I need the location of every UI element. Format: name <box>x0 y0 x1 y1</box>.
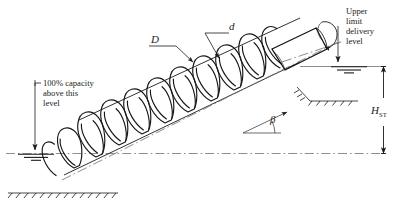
screw-trough <box>62 18 340 180</box>
water-level-icon-lower <box>18 154 54 160</box>
upper-limit-line-1: Upper <box>346 6 368 16</box>
water-level-icon-upper <box>331 67 367 73</box>
screw-flights <box>38 24 293 177</box>
lower-capacity-line-3: level <box>43 98 60 108</box>
leader-outer-diameter <box>149 46 193 62</box>
incline-angle-label: β <box>269 113 276 125</box>
figure-root: Upper limit delivery level 100% capacity… <box>0 0 403 219</box>
static-head-dimension <box>381 67 386 154</box>
lower-capacity-line-2: above this <box>43 88 79 98</box>
ground-hatch-right <box>294 87 358 106</box>
inner-diameter-label: d <box>229 20 235 32</box>
drive-tube <box>272 28 344 70</box>
upper-limit-line-3: delivery <box>346 26 375 36</box>
ground-hatch-left <box>8 193 118 198</box>
static-head-subscript: ST <box>379 111 387 118</box>
screw-pump-diagram: Upper limit delivery level 100% capacity… <box>0 0 403 219</box>
outer-diameter-label: D <box>150 33 159 45</box>
upper-limit-line-2: limit <box>346 16 363 26</box>
angle-beta-marker <box>243 112 287 133</box>
leader-lower-capacity <box>35 80 41 150</box>
rotation-arrow-icon <box>318 22 337 48</box>
lower-capacity-line-1: 100% capacity <box>43 78 95 88</box>
upper-limit-line-4: level <box>346 36 363 46</box>
